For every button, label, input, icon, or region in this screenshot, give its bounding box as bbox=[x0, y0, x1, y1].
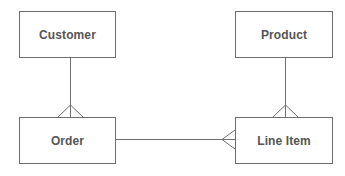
crows-foot-right bbox=[286, 105, 299, 117]
crows-foot-left bbox=[273, 105, 286, 117]
er-diagram-canvas: Customer Order Product Line Item bbox=[0, 0, 345, 176]
crows-foot-top bbox=[222, 130, 235, 140]
entity-label-customer: Customer bbox=[39, 28, 96, 42]
entity-customer[interactable]: Customer bbox=[19, 11, 116, 58]
crows-foot-left bbox=[58, 105, 71, 117]
entity-label-product: Product bbox=[261, 28, 307, 42]
crows-foot-bottom bbox=[222, 140, 235, 150]
entity-line-item[interactable]: Line Item bbox=[235, 117, 333, 164]
entity-label-order: Order bbox=[51, 134, 84, 148]
entity-label-line-item: Line Item bbox=[257, 134, 311, 148]
relationship-order-lineitem bbox=[116, 130, 235, 149]
entity-order[interactable]: Order bbox=[19, 117, 116, 164]
entity-product[interactable]: Product bbox=[235, 11, 333, 58]
crows-foot-right bbox=[71, 105, 84, 117]
relationship-product-lineitem bbox=[273, 58, 298, 117]
relationship-customer-order bbox=[58, 58, 83, 117]
